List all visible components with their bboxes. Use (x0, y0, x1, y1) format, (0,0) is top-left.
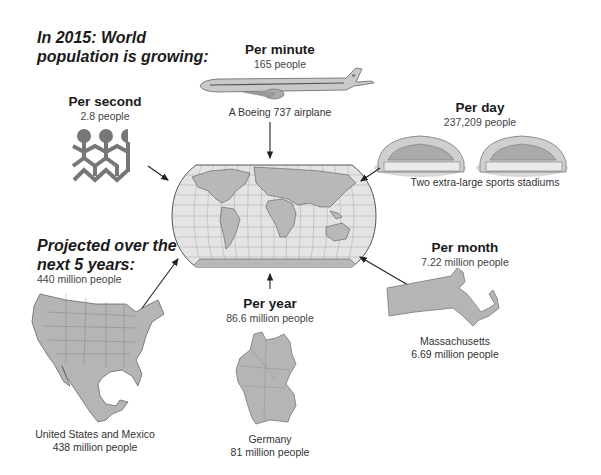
projection-title: Projected over the next 5 years: (37, 236, 177, 274)
projection-title-line2: next 5 years: (37, 255, 177, 274)
comparison-name: United States and Mexico (20, 428, 170, 441)
rate-per-year: Per year 86.6 million people (205, 296, 335, 325)
massachusetts-caption: Massachusetts 6.69 million people (395, 335, 515, 361)
us-mexico-map-icon (26, 292, 170, 428)
comparison-value: 438 million people (20, 441, 170, 454)
comparison-name: Germany (205, 433, 335, 446)
us-mexico-caption: United States and Mexico 438 million peo… (20, 428, 170, 454)
germany-caption: Germany 81 million people (205, 433, 335, 459)
rate-heading: Per year (205, 296, 335, 312)
comparison-value: 6.69 million people (395, 348, 515, 361)
arrow-per-second (148, 166, 168, 180)
comparison-value: 81 million people (205, 446, 335, 459)
arrow-per-day (361, 168, 380, 181)
projection-title-line1: Projected over the (37, 236, 177, 255)
massachusetts-map-icon (385, 268, 505, 332)
rate-heading: Per month (410, 240, 520, 256)
projection-value: 440 million people (37, 273, 122, 286)
rate-value: 86.6 million people (205, 312, 335, 325)
comparison-name: Massachusetts (395, 335, 515, 348)
germany-map-icon (230, 330, 305, 430)
rate-per-month: Per month 7.22 million people (410, 240, 520, 269)
